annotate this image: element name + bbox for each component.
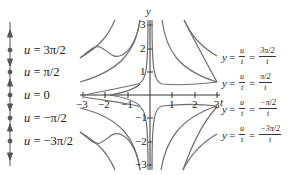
- y-tick: 1: [140, 66, 146, 77]
- arrow-down-icon: [8, 59, 13, 66]
- fraction-value: −π/2t: [259, 99, 277, 118]
- curve-label-3pi2: y = ut = 3π/2t: [222, 47, 278, 66]
- label-var: u: [24, 134, 30, 148]
- frac-num: u: [239, 47, 245, 57]
- equilibrium-dot: [8, 93, 12, 97]
- label-value: = 0: [33, 88, 49, 102]
- curve-label-neg-pi2: y = ut = −π/2t: [222, 99, 279, 118]
- y-tick: 2: [140, 43, 146, 54]
- frac-den: t: [241, 135, 243, 144]
- curve-neg3pi2-right: [183, 134, 217, 170]
- equilibrium-label-3pi2: u = 3π/2: [24, 44, 66, 57]
- equilibrium-dot: [8, 139, 12, 143]
- curve-negpi2-right: [152, 105, 217, 171]
- fraction-u-over-t: ut: [239, 73, 245, 92]
- eq-sign: =: [249, 129, 255, 141]
- eq-sign: =: [229, 77, 235, 89]
- arrow-up-icon: [8, 124, 13, 131]
- frac-num: π/2: [259, 73, 271, 83]
- eq-sign: =: [249, 103, 255, 115]
- eq-lhs: y: [222, 129, 227, 141]
- equilibrium-label-neg-3pi2: u = −3π/2: [24, 135, 73, 148]
- x-tick: 3: [214, 99, 220, 110]
- x-tick: −1: [121, 99, 133, 110]
- fraction-value: π/2t: [259, 73, 271, 92]
- eq-lhs: y: [222, 51, 227, 63]
- eq-sign: =: [249, 77, 255, 89]
- x-tick: −3: [76, 99, 88, 110]
- x-tick: −2: [98, 99, 110, 110]
- y-tick: 3: [140, 19, 146, 30]
- frac-num: u: [239, 125, 245, 135]
- eq-sign: =: [229, 129, 235, 141]
- curve-label-neg-3pi2: y = ut = −3π/2t: [222, 125, 283, 144]
- frac-num: 3π/2: [259, 47, 275, 57]
- frac-den: t: [241, 109, 243, 118]
- figure: u = 3π/2 u = π/2 u = 0 u = −π/2 u = −3π/…: [0, 0, 300, 175]
- label-value: = π/2: [33, 65, 59, 79]
- label-var: u: [24, 65, 30, 79]
- eq-sign: =: [229, 103, 235, 115]
- fraction-u-over-t: ut: [239, 99, 245, 118]
- frac-num: −π/2: [259, 99, 277, 109]
- y-tick: −1: [135, 112, 147, 123]
- label-var: u: [24, 43, 30, 57]
- frac-den: t: [264, 83, 266, 92]
- arrow-up-icon: [8, 79, 13, 86]
- frac-num: −3π/2: [259, 125, 281, 135]
- fraction-value: −3π/2t: [259, 125, 281, 144]
- fraction-u-over-t: ut: [239, 47, 245, 66]
- x-tick: 2: [192, 99, 198, 110]
- equilibrium-label-pi2: u = π/2: [24, 66, 60, 79]
- frac-den: t: [241, 57, 243, 66]
- eq-sign: =: [229, 51, 235, 63]
- frac-num: u: [239, 99, 245, 109]
- label-value: = −π/2: [33, 111, 66, 125]
- frac-den: t: [241, 83, 243, 92]
- eq-lhs: y: [222, 103, 227, 115]
- y-tick: −2: [135, 136, 147, 147]
- label-value: = 3π/2: [33, 43, 65, 57]
- equilibrium-dot: [8, 48, 12, 52]
- curve-upper-left-1: [80, 20, 115, 58]
- frac-den: t: [266, 57, 268, 66]
- frac-den: t: [267, 109, 269, 118]
- eq-lhs: y: [222, 77, 227, 89]
- curve-lower-left-2: [80, 132, 115, 170]
- eq-sign: =: [249, 51, 255, 63]
- arrow-down-icon: [8, 104, 13, 111]
- curve-upper-right-2: [184, 20, 217, 82]
- equilibrium-dot: [8, 116, 12, 120]
- label-value: = −3π/2: [33, 134, 73, 148]
- phase-line: [8, 22, 13, 166]
- curve-label-pi2: y = ut = π/2t: [222, 73, 274, 92]
- x-tick: 1: [169, 99, 175, 110]
- frac-num: u: [239, 73, 245, 83]
- fraction-value: 3π/2t: [259, 47, 275, 66]
- equilibrium-dot: [8, 70, 12, 74]
- frac-den: t: [269, 135, 271, 144]
- y-axis-label: y: [146, 6, 151, 17]
- equilibrium-label-0: u = 0: [24, 89, 50, 102]
- label-var: u: [24, 111, 30, 125]
- arrow-down-icon: [8, 153, 13, 160]
- curve-upper-right-near: [152, 20, 217, 85]
- y-tick: −3: [135, 159, 147, 170]
- fraction-u-over-t: ut: [239, 125, 245, 144]
- equilibrium-label-neg-pi2: u = −π/2: [24, 112, 67, 125]
- label-var: u: [24, 88, 30, 102]
- arrow-up-icon: [8, 30, 13, 37]
